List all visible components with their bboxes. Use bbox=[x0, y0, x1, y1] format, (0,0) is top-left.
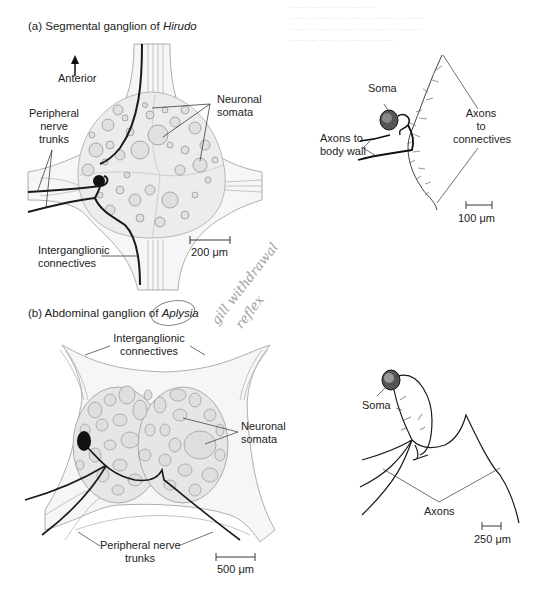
peripheral-nerve-trunks-label-b: Peripheral nerve trunks bbox=[100, 539, 180, 565]
axons-label-b: Axons bbox=[424, 505, 455, 518]
label-line: Neuronal bbox=[241, 420, 286, 433]
panel-b-title: (b) Abdominal ganglion of Aplysia bbox=[28, 307, 199, 320]
label-line: connectives bbox=[453, 133, 509, 146]
figure-illustration bbox=[0, 0, 547, 596]
label-line: connectives bbox=[104, 345, 194, 358]
anterior-label: Anterior bbox=[58, 72, 97, 85]
panel-b-title-prefix: (b) Abdominal ganglion of bbox=[28, 307, 162, 319]
scale-bar-label-500um: 500 μm bbox=[217, 563, 254, 576]
label-line: Axons bbox=[453, 107, 509, 120]
label-line: trunks bbox=[28, 133, 80, 146]
label-line: somata bbox=[217, 106, 262, 119]
panel-b-species: Aplysia bbox=[162, 307, 199, 319]
soma-label-b: Soma bbox=[362, 399, 391, 412]
peripheral-nerve-trunks-label-a: Peripheral nerve trunks bbox=[28, 107, 80, 146]
label-line: Interganglionic bbox=[38, 244, 110, 257]
label-line: nerve bbox=[28, 120, 80, 133]
label-line: trunks bbox=[100, 552, 180, 565]
neuronal-somata-label-b: Neuronal somata bbox=[241, 420, 286, 446]
label-line: Peripheral nerve bbox=[100, 539, 180, 552]
label-line: Neuronal bbox=[217, 93, 262, 106]
axons-to-connectives-label: Axons to connectives bbox=[453, 107, 509, 146]
interganglionic-connectives-label-b: Interganglionic connectives bbox=[104, 332, 194, 358]
scale-bar-label-100um: 100 μm bbox=[458, 212, 495, 225]
panel-a-title: (a) Segmental ganglion of Hirudo bbox=[28, 20, 197, 33]
label-line: connectives bbox=[38, 257, 110, 270]
scale-bar-label-250um: 250 μm bbox=[474, 533, 511, 546]
axons-to-body-wall-label: Axons to body wall bbox=[320, 132, 366, 158]
label-line: Axons to bbox=[320, 132, 366, 145]
label-line: body wall bbox=[320, 145, 366, 158]
panel-a-species: Hirudo bbox=[163, 20, 197, 32]
label-line: Interganglionic bbox=[104, 332, 194, 345]
label-line: to bbox=[453, 120, 509, 133]
scale-bar-label-200um: 200 μm bbox=[191, 246, 228, 259]
neuronal-somata-label-a: Neuronal somata bbox=[217, 93, 262, 119]
label-line: Peripheral bbox=[28, 107, 80, 120]
soma-label-a: Soma bbox=[368, 82, 397, 95]
panel-a-title-prefix: (a) Segmental ganglion of bbox=[28, 20, 163, 32]
label-line: somata bbox=[241, 433, 286, 446]
interganglionic-connectives-label-a: Interganglionic connectives bbox=[38, 244, 110, 270]
